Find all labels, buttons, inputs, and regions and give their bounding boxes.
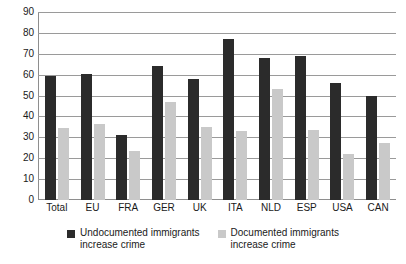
x-axis-tick-label: Total bbox=[39, 202, 75, 213]
bar bbox=[152, 66, 163, 200]
x-axis-tick-label: FRA bbox=[110, 202, 146, 213]
bar bbox=[129, 151, 140, 200]
y-axis-tick-label: 60 bbox=[4, 70, 34, 80]
bar bbox=[81, 74, 92, 200]
bar bbox=[379, 143, 390, 200]
y-axis-tick-label: 10 bbox=[4, 174, 34, 184]
bar bbox=[366, 96, 377, 200]
bar-group bbox=[289, 12, 325, 200]
bar-group bbox=[75, 12, 111, 200]
y-axis-tick-label: 40 bbox=[4, 111, 34, 121]
bar bbox=[116, 135, 127, 200]
bar-group bbox=[360, 12, 396, 200]
plot-wrapper: 0102030405060708090 TotalEUFRAGERUKITANL… bbox=[0, 0, 406, 222]
y-axis-tick-label: 0 bbox=[4, 195, 34, 205]
bar-group bbox=[325, 12, 361, 200]
y-axis-tick-label: 50 bbox=[4, 91, 34, 101]
y-axis-tick-label: 80 bbox=[4, 28, 34, 38]
y-axis-tick-label: 20 bbox=[4, 153, 34, 163]
x-axis-tick-label: UK bbox=[182, 202, 218, 213]
y-axis-tick-label: 70 bbox=[4, 49, 34, 59]
y-axis-tick-label: 90 bbox=[4, 7, 34, 17]
bar bbox=[223, 39, 234, 200]
bar bbox=[165, 102, 176, 200]
bar bbox=[188, 79, 199, 200]
bar bbox=[295, 56, 306, 200]
bar bbox=[201, 127, 212, 200]
x-axis-tick-label: CAN bbox=[360, 202, 396, 213]
x-axis-tick-label: USA bbox=[325, 202, 361, 213]
bar bbox=[330, 83, 341, 200]
bar-group bbox=[253, 12, 289, 200]
bar bbox=[58, 128, 69, 200]
x-axis-tick-label: EU bbox=[75, 202, 111, 213]
legend-label: Undocumented immigrantsincrease crime bbox=[80, 227, 200, 251]
bar-groups bbox=[39, 12, 396, 200]
legend-swatch-icon bbox=[67, 230, 75, 238]
bar bbox=[343, 154, 354, 200]
y-axis-tick-label: 30 bbox=[4, 132, 34, 142]
bar bbox=[236, 131, 247, 200]
x-axis-tick-label: GER bbox=[146, 202, 182, 213]
bar-group bbox=[218, 12, 254, 200]
x-axis-tick-label: ESP bbox=[289, 202, 325, 213]
bar bbox=[308, 130, 319, 200]
bar-group bbox=[182, 12, 218, 200]
x-axis-tick-labels: TotalEUFRAGERUKITANLDESPUSACAN bbox=[39, 202, 396, 213]
bar bbox=[45, 76, 56, 200]
bar-chart-figure: 0102030405060708090 TotalEUFRAGERUKITANL… bbox=[0, 0, 406, 264]
x-axis-tick-label: ITA bbox=[218, 202, 254, 213]
legend-label: Documented immigrantsincrease crime bbox=[231, 227, 339, 251]
chart-legend: Undocumented immigrantsincrease crimeDoc… bbox=[0, 227, 406, 251]
bar-group bbox=[39, 12, 75, 200]
legend-swatch-icon bbox=[218, 230, 226, 238]
bar bbox=[272, 89, 283, 200]
bar-group bbox=[110, 12, 146, 200]
bar bbox=[259, 58, 270, 200]
legend-entry: Undocumented immigrantsincrease crime bbox=[67, 227, 200, 251]
bar bbox=[94, 124, 105, 200]
legend-entry: Documented immigrantsincrease crime bbox=[218, 227, 339, 251]
x-axis-tick-label: NLD bbox=[253, 202, 289, 213]
bar-group bbox=[146, 12, 182, 200]
